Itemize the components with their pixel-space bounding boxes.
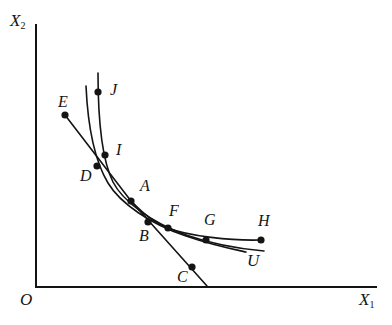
curve-budget-line-EDAC (65, 115, 207, 286)
point-label-g: G (204, 212, 216, 228)
y-axis-label-sub: 2 (20, 20, 25, 31)
point-label-c: C (177, 269, 188, 285)
y-axis-label: X2 (10, 12, 25, 29)
data-point-c (188, 263, 195, 270)
point-label-h: H (258, 213, 270, 229)
point-label-d: D (80, 168, 92, 184)
data-point-h (257, 236, 264, 243)
data-point-g (202, 236, 209, 243)
axes-group (36, 25, 376, 287)
data-point-b (144, 218, 151, 225)
curve-isoquant-outer-JIA (98, 73, 264, 251)
curve-label-u: U (247, 252, 259, 269)
origin-label: O (20, 291, 32, 308)
point-label-a: A (140, 178, 150, 194)
point-label-j: J (110, 82, 117, 98)
data-point-i (101, 151, 108, 158)
data-point-e (61, 111, 68, 118)
x-axis-label-sub: 1 (369, 299, 374, 310)
economics-isoquant-diagram: X2 X1 O EJIDABFGHCU (0, 0, 392, 325)
data-point-j (94, 88, 101, 95)
point-label-b: B (139, 228, 149, 244)
point-label-f: F (169, 203, 179, 219)
x-axis-label: X1 (359, 291, 374, 308)
data-point-a (127, 197, 134, 204)
point-label-e: E (58, 94, 68, 110)
plot-canvas (0, 0, 392, 325)
data-point-f (164, 224, 171, 231)
x-axis-label-text: X (359, 290, 369, 309)
data-point-d (93, 162, 100, 169)
curves-group (65, 73, 264, 286)
y-axis-label-text: X (10, 11, 20, 30)
point-label-i: I (116, 142, 121, 158)
